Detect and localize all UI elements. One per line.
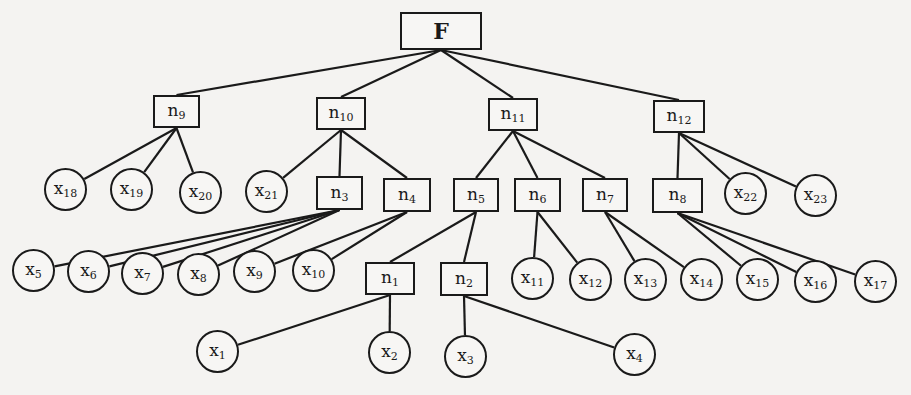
node-label-subscript: 4	[409, 193, 416, 206]
gate-node-n12: n12	[653, 100, 705, 133]
node-label: x22	[734, 184, 758, 203]
leaf-node-x4: x4	[613, 333, 656, 376]
node-label-subscript: 12	[677, 114, 691, 127]
node-label-subscript: 22	[743, 191, 757, 204]
node-label: x10	[302, 261, 326, 280]
node-label-base: x	[626, 343, 636, 363]
edge-n11-n7	[513, 131, 605, 178]
node-label-base: x	[25, 259, 35, 279]
leaf-node-x22: x22	[724, 172, 767, 215]
node-label: n7	[596, 186, 614, 205]
node-label: x23	[804, 186, 828, 205]
leaf-node-x1: x1	[196, 330, 239, 373]
leaf-node-x16: x16	[794, 260, 837, 303]
node-label-subscript: 23	[813, 193, 827, 206]
node-label-base: x	[302, 259, 312, 279]
leaf-node-x18: x18	[44, 168, 87, 211]
gate-node-n1: n1	[365, 262, 415, 295]
node-label: x3	[457, 347, 474, 366]
edge-n9-x20	[177, 128, 194, 172]
gate-node-n7: n7	[582, 178, 628, 212]
node-label-base: n	[529, 184, 540, 204]
leaf-node-x9: x9	[233, 250, 276, 293]
node-label-base: x	[521, 267, 531, 287]
leaf-node-x6: x6	[67, 250, 110, 293]
node-label: x2	[381, 343, 398, 362]
node-label-base: n	[331, 182, 342, 202]
node-label: x5	[25, 261, 42, 280]
leaf-node-x12: x12	[569, 258, 612, 301]
edge-n10-n3	[340, 130, 342, 176]
node-label-subscript: 21	[264, 189, 278, 202]
leaf-node-x11: x11	[511, 257, 554, 300]
gate-node-F: F	[400, 12, 482, 50]
node-label-subscript: 5	[478, 193, 485, 206]
node-label: n11	[501, 105, 526, 124]
node-label-subscript: 2	[391, 350, 398, 363]
node-label: n6	[529, 186, 547, 205]
node-label-base: n	[667, 105, 678, 125]
node-label-base: x	[746, 268, 756, 288]
leaf-node-x10: x10	[292, 249, 335, 292]
node-label-base: x	[80, 260, 90, 280]
node-label-subscript: 3	[341, 191, 348, 204]
node-label: n12	[667, 107, 692, 126]
node-label-subscript: 17	[873, 279, 887, 292]
node-label: x13	[634, 270, 658, 289]
node-label-subscript: 2	[466, 277, 473, 290]
node-label: x6	[80, 262, 97, 281]
node-label-subscript: 3	[467, 354, 474, 367]
node-label: x8	[190, 265, 207, 284]
edge-n2-x4	[464, 296, 614, 348]
node-label-subscript: 15	[755, 277, 769, 290]
edge-n5-n2	[464, 212, 476, 262]
node-label: F	[433, 20, 449, 42]
node-label: x20	[189, 183, 213, 202]
node-label: n10	[329, 104, 354, 123]
node-label-subscript: 19	[129, 187, 143, 200]
gate-node-n2: n2	[440, 262, 488, 296]
node-label-base: x	[255, 180, 265, 200]
tree-diagram: Fn9n10n11n12x18x19x20x21n3n4n5n6n7n8x22x…	[0, 0, 911, 395]
node-label-base: n	[398, 184, 409, 204]
node-label-base: x	[190, 263, 200, 283]
gate-node-n5: n5	[453, 178, 499, 212]
gate-node-n10: n10	[316, 97, 366, 130]
node-label-base: x	[690, 268, 700, 288]
edge-n11-n5	[476, 131, 513, 178]
node-label: n4	[398, 186, 416, 205]
edge-n12-x22	[679, 133, 730, 179]
leaf-node-x2: x2	[368, 331, 411, 374]
gate-node-n4: n4	[383, 178, 431, 212]
node-label: x16	[804, 272, 828, 291]
node-label: n5	[467, 186, 485, 205]
node-label-base: n	[168, 100, 179, 120]
node-label-subscript: 11	[511, 112, 525, 125]
node-label-base: n	[669, 184, 680, 204]
leaf-node-x17: x17	[854, 260, 897, 303]
node-label: x21	[255, 182, 279, 201]
node-label: x19	[120, 180, 144, 199]
node-label-subscript: 4	[636, 352, 643, 365]
node-label-base: x	[579, 268, 589, 288]
node-label-base: n	[381, 267, 392, 287]
node-label-base: n	[329, 102, 340, 122]
node-label-subscript: 6	[539, 193, 546, 206]
gate-node-n9: n9	[153, 95, 200, 128]
gate-node-n3: n3	[316, 176, 363, 210]
node-label-base: n	[596, 184, 607, 204]
node-label-subscript: 10	[339, 111, 353, 124]
edge-n6-x11	[534, 212, 537, 257]
node-label-subscript: 9	[256, 269, 263, 282]
edge-n12-n8	[678, 133, 680, 178]
edge-n10-n4	[341, 130, 407, 178]
node-label: x17	[864, 272, 888, 291]
node-label: x15	[746, 270, 770, 289]
edge-F-n9	[177, 50, 442, 95]
node-label-base: x	[734, 182, 744, 202]
edge-n10-x21	[283, 130, 341, 178]
edge-n5-n1	[390, 212, 476, 262]
node-label-subscript: 7	[607, 193, 614, 206]
leaf-node-x23: x23	[794, 174, 837, 217]
node-label-base: x	[457, 345, 467, 365]
